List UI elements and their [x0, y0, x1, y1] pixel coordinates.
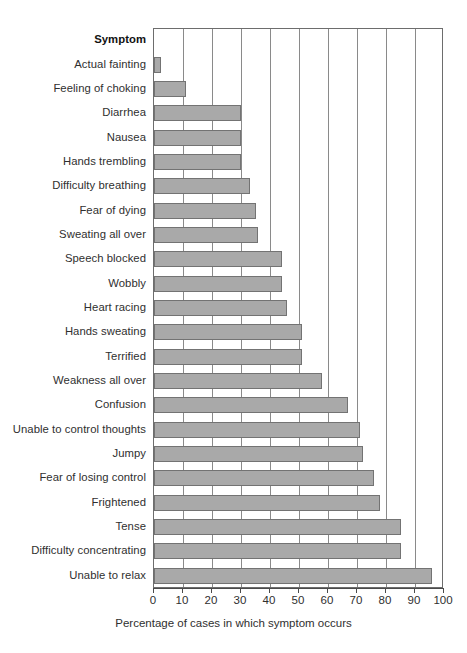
- category-label-12: Terrified: [0, 350, 146, 362]
- bar-5: [154, 178, 250, 194]
- category-label-9: Wobbly: [0, 277, 146, 289]
- x-tick-0: [153, 588, 154, 593]
- category-label-20: Difficulty concentrating: [0, 544, 146, 556]
- x-tick-90: [414, 588, 415, 593]
- bar-20: [154, 543, 401, 559]
- x-tick-label-100: 100: [433, 594, 452, 606]
- x-tick-label-90: 90: [408, 594, 421, 606]
- bar-17: [154, 470, 374, 486]
- category-label-13: Weakness all over: [0, 374, 146, 386]
- chart-figure: SymptomActual faintingFeeling of choking…: [0, 0, 467, 653]
- bar-9: [154, 276, 282, 292]
- x-tick-label-40: 40: [263, 594, 276, 606]
- category-label-4: Hands trembling: [0, 155, 146, 167]
- x-axis-title: Percentage of cases in which symptom occ…: [0, 617, 467, 629]
- category-label-6: Fear of dying: [0, 204, 146, 216]
- bar-21: [154, 568, 432, 584]
- category-label-2: Diarrhea: [0, 106, 146, 118]
- category-label-16: Jumpy: [0, 447, 146, 459]
- bar-8: [154, 251, 282, 267]
- x-tick-label-0: 0: [150, 594, 156, 606]
- category-label-17: Fear of losing control: [0, 471, 146, 483]
- bar-0: [154, 57, 161, 73]
- x-tick-100: [443, 588, 444, 593]
- bar-1: [154, 81, 186, 97]
- x-tick-50: [298, 588, 299, 593]
- x-tick-10: [182, 588, 183, 593]
- bar-rows: SymptomActual faintingFeeling of choking…: [0, 28, 467, 588]
- x-tick-20: [211, 588, 212, 593]
- category-label-3: Nausea: [0, 131, 146, 143]
- category-label-10: Heart racing: [0, 301, 146, 313]
- category-label-1: Feeling of choking: [0, 82, 146, 94]
- x-tick-70: [356, 588, 357, 593]
- category-label-11: Hands sweating: [0, 325, 146, 337]
- category-label-21: Unable to relax: [0, 569, 146, 581]
- bar-3: [154, 130, 241, 146]
- category-label-0: Actual fainting: [0, 58, 146, 70]
- bar-10: [154, 300, 287, 316]
- category-axis-header: Symptom: [0, 33, 146, 45]
- bar-4: [154, 154, 241, 170]
- category-label-19: Tense: [0, 520, 146, 532]
- category-label-7: Sweating all over: [0, 228, 146, 240]
- x-tick-60: [327, 588, 328, 593]
- bar-15: [154, 422, 360, 438]
- bar-14: [154, 397, 348, 413]
- x-tick-label-30: 30: [234, 594, 247, 606]
- bar-18: [154, 495, 380, 511]
- x-tick-label-80: 80: [379, 594, 392, 606]
- category-label-8: Speech blocked: [0, 252, 146, 264]
- category-label-5: Difficulty breathing: [0, 179, 146, 191]
- x-tick-30: [240, 588, 241, 593]
- bar-12: [154, 349, 302, 365]
- bar-19: [154, 519, 401, 535]
- category-label-14: Confusion: [0, 398, 146, 410]
- bar-13: [154, 373, 322, 389]
- category-label-18: Frightened: [0, 496, 146, 508]
- bar-11: [154, 324, 302, 340]
- x-tick-label-50: 50: [292, 594, 305, 606]
- x-tick-label-20: 20: [205, 594, 218, 606]
- x-tick-80: [385, 588, 386, 593]
- x-tick-40: [269, 588, 270, 593]
- x-tick-label-60: 60: [321, 594, 334, 606]
- bar-7: [154, 227, 258, 243]
- bar-16: [154, 446, 363, 462]
- x-tick-label-70: 70: [350, 594, 363, 606]
- bar-6: [154, 203, 256, 219]
- plot-wrapper: SymptomActual faintingFeeling of choking…: [0, 0, 467, 653]
- category-label-15: Unable to control thoughts: [0, 423, 146, 435]
- x-tick-label-10: 10: [176, 594, 189, 606]
- bar-2: [154, 105, 241, 121]
